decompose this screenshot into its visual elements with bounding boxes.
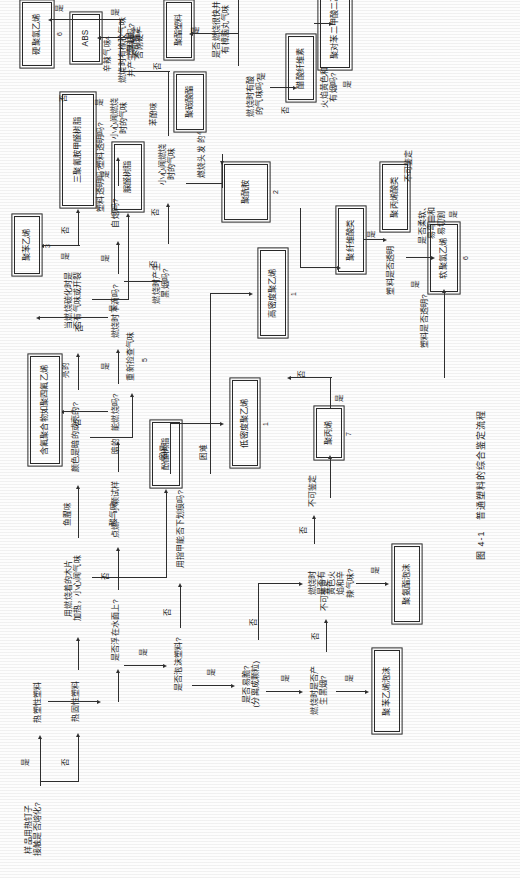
- result-box-fluoropolymer: 含氟聚合物如聚四氟乙烯: [30, 356, 60, 464]
- answer-no-abs: 否: [154, 62, 162, 70]
- question-carbon-crack: 当燃烧碳化时是 否有气味或开裂: [64, 248, 83, 352]
- result-box-abs: ABS: [72, 14, 100, 62]
- connector: [92, 299, 128, 300]
- connector: [166, 492, 167, 578]
- connector: [258, 583, 300, 584]
- question-is-foam-plastic: 是否泡沫塑料?: [174, 628, 183, 700]
- question-transparent-3: 塑料是否透明: [386, 234, 395, 306]
- question-foam-yellow-flame: 燃烧时 是否有 黄色火 焰和辛 辣气味?: [308, 544, 355, 622]
- answer-hard: 困难: [200, 444, 208, 460]
- connector: [120, 71, 170, 72]
- arrow-head: [178, 583, 182, 587]
- arrow-head: [385, 583, 389, 587]
- answer-fish-smell: 鱼腥味: [64, 501, 72, 526]
- question-foam-black-smoke: 燃烧时是否产 生黑烟?: [310, 652, 329, 728]
- connector: [100, 37, 134, 38]
- connector: [40, 781, 78, 782]
- question-soft-bendable: 是否柔软、 易弯曲和 易切割: [418, 190, 446, 256]
- connector: [210, 293, 250, 294]
- label-recheck-smell: 重新捡查气味: [126, 320, 135, 392]
- answer-no-pc: 否: [60, 94, 68, 102]
- connector: [168, 72, 169, 136]
- number-hdpe: 1: [290, 292, 297, 296]
- result-box-pu-foam: 聚氨酯泡沫: [394, 546, 420, 622]
- connector: [258, 584, 259, 640]
- scanned-figure-page: 样品用热钉子 接触是否熔化? 是 热塑性塑料 否 热固性塑料 用燃烧着的木片 加…: [0, 0, 520, 878]
- connector: [266, 691, 300, 692]
- question-thermoset-wood: 用燃烧着的木片 加热，小心闻气味: [64, 540, 83, 636]
- answer-yes-ps-foam: 是: [346, 674, 354, 682]
- arrow-head: [249, 293, 253, 297]
- connector: [40, 317, 108, 318]
- arrow-head: [38, 735, 42, 739]
- arrow-head: [97, 701, 101, 705]
- result-unidentifiable-acrylic: 不可鉴定: [404, 142, 413, 190]
- arrow-head: [299, 691, 303, 695]
- answer-no-brittle: 否: [250, 618, 258, 626]
- arrow-head: [130, 393, 134, 397]
- question-drip-when-burn: 燃烧时下滴吗?: [111, 274, 120, 348]
- question-fingernail-scratch: 用指甲能否下划痕吗?: [176, 476, 185, 582]
- arrow-head: [76, 733, 80, 737]
- arrow-head: [329, 23, 333, 27]
- connector: [314, 23, 330, 24]
- arrow-head: [383, 239, 387, 243]
- connector: [170, 423, 222, 424]
- question-acid-smell-burn: 燃烧时有酸 的气味吗?: [246, 58, 265, 134]
- answer-yes-drip: 是: [102, 254, 110, 262]
- result-box-ldpe: 低密度聚乙烯: [232, 380, 258, 466]
- answer-no-burn: 否: [74, 418, 82, 426]
- result-box-polycarbonate: 聚碳酸酯: [176, 74, 204, 130]
- connector: [364, 239, 384, 240]
- connector: [356, 583, 386, 584]
- answer-yes-pp: 是: [336, 394, 344, 402]
- result-unidentifiable-foam-2: 不可鉴定: [308, 468, 317, 514]
- answer-no-drip: 否: [76, 324, 84, 332]
- connector: [40, 738, 41, 786]
- connector: [300, 267, 338, 268]
- connector: [78, 640, 79, 670]
- connector: [210, 294, 211, 474]
- question-careful-smell-1: 小心闻燃烧 时的气味: [158, 126, 177, 202]
- result-box-rigid-pvc: 硬聚氯乙烯: [22, 2, 52, 66]
- connector: [118, 444, 119, 472]
- connector: [132, 396, 133, 438]
- arrow-head: [76, 209, 80, 213]
- answer-yes-float: 是: [140, 648, 148, 656]
- connector: [118, 244, 119, 274]
- answer-yes-pc: 是: [96, 98, 104, 106]
- arrow-head: [97, 37, 101, 41]
- answer-phenol-smell: 苯酚味: [150, 101, 158, 126]
- number-pa: 2: [272, 190, 279, 194]
- arrow-head: [116, 349, 120, 353]
- connector: [78, 356, 79, 390]
- question-brittle-granules: 是否易脆? (分离成颗粒): [242, 642, 261, 726]
- number-ps: 3: [44, 244, 51, 248]
- connector: [444, 292, 445, 378]
- connector: [118, 160, 119, 186]
- connector: [118, 550, 119, 590]
- connector: [290, 377, 332, 378]
- arrow-head: [328, 455, 332, 459]
- answer-yes-abs: 是: [112, 8, 120, 16]
- connector: [120, 20, 121, 72]
- answer-yes-soft-pvc-2: 是: [450, 210, 458, 218]
- answer-easy: 容易: [160, 444, 168, 460]
- connector: [270, 87, 294, 88]
- arrow-head: [76, 353, 80, 357]
- arrow-head: [116, 441, 120, 445]
- connector: [314, 518, 315, 544]
- question-sample-melt: 样品用热钉子 接触是否熔化?: [24, 786, 43, 872]
- arrow-head: [293, 87, 297, 91]
- question-transparent-2: 塑料透明吗?: [96, 156, 105, 222]
- result-box-polyamide: 聚酰胺: [224, 164, 268, 220]
- arrow-head: [163, 665, 167, 669]
- question-self-extinguish: 自熄吗?: [111, 186, 120, 240]
- arrow-head: [164, 489, 168, 493]
- connector: [52, 19, 122, 20]
- connector: [330, 378, 331, 408]
- connector: [118, 352, 119, 384]
- answer-yes-soft-pvc: 是: [412, 280, 420, 288]
- result-thermoplastic: 热塑性塑料: [33, 670, 42, 734]
- result-unidentifiable-right: 不可鉴定: [132, 18, 141, 66]
